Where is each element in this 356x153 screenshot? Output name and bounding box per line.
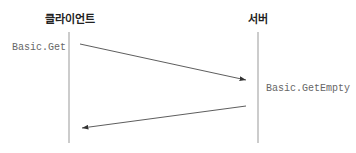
client-header: 클라이언트 [45, 10, 95, 26]
basic-get-label: Basic.Get [12, 42, 66, 53]
server-header: 서버 [248, 10, 268, 26]
basic-getempty-label: Basic.GetEmpty [266, 83, 350, 94]
basic-get-arrow [80, 44, 246, 80]
basic-getempty-arrow [82, 106, 246, 128]
